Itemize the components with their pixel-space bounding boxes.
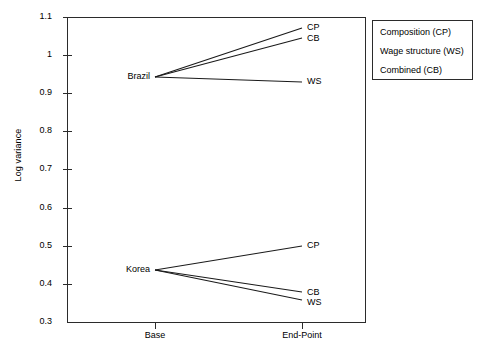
end-label-brazil-ws: WS [307,77,322,86]
legend-entry-wage-structure: Wage structure (WS) [380,47,472,56]
end-label-korea-cp: CP [307,241,320,250]
x-tick-label-endpoint: End-Point [282,331,322,340]
legend-entry-composition: Composition (CP) [380,28,472,37]
series-line-korea-cb [155,270,302,292]
series-group-korea [155,246,302,300]
series-line-korea-ws [155,270,302,300]
series-line-korea-cp [155,246,302,270]
legend-entry-combined: Combined (CB) [380,66,472,75]
end-label-brazil-cb: CB [307,34,320,43]
series-group-brazil [155,28,302,82]
series-line-brazil-cb [155,38,302,77]
end-label-brazil-cp: CP [307,23,320,32]
plot-frame [68,18,366,323]
chart-legend: Composition (CP) Wage structure (WS) Com… [372,20,473,80]
x-tick-label-base: Base [145,331,166,340]
group-label-brazil: Brazil [127,72,150,81]
series-line-brazil-cp [155,28,302,77]
end-label-korea-cb: CB [307,288,320,297]
series-line-brazil-ws [155,77,302,82]
end-label-korea-ws: WS [307,298,322,307]
group-label-korea: Korea [126,265,150,274]
chart-figure: Log variance 1.1 1 0.9 0.8 0.7 0.6 0.5 0… [0,0,483,351]
